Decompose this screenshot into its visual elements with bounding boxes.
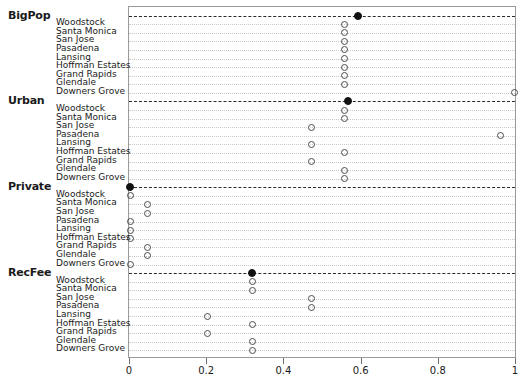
data-point[interactable] [341, 55, 348, 62]
dot-plot-chart: BigPopWoodstockSanta MonicaSan JosePasad… [0, 0, 525, 387]
x-tick-label: 0.2 [198, 365, 214, 376]
category-label: Downers Grove [56, 344, 125, 353]
data-point[interactable] [341, 107, 348, 114]
dotted-gridline [129, 325, 515, 326]
dashed-gridline [129, 273, 515, 274]
dotted-gridline [129, 67, 515, 68]
dotted-gridline [129, 230, 515, 231]
data-point[interactable] [341, 115, 348, 122]
dotted-gridline [129, 265, 515, 266]
category-label: Downers Grove [56, 259, 125, 268]
data-point[interactable] [341, 38, 348, 45]
panel-summary-point-recfee[interactable] [248, 269, 256, 277]
x-tick-label: 0.6 [353, 365, 369, 376]
dotted-gridline [129, 144, 515, 145]
x-tick-mark [283, 358, 284, 364]
dotted-gridline [129, 350, 515, 351]
data-point[interactable] [341, 46, 348, 53]
data-point[interactable] [341, 64, 348, 71]
x-tick-label: 0.4 [275, 365, 291, 376]
dotted-gridline [129, 41, 515, 42]
data-point[interactable] [308, 295, 315, 302]
x-tick-mark [206, 358, 207, 364]
dotted-gridline [129, 213, 515, 214]
panel-summary-point-private[interactable] [126, 183, 134, 191]
x-tick-label: 1 [512, 365, 518, 376]
data-point[interactable] [341, 72, 348, 79]
dotted-gridline [129, 307, 515, 308]
dotted-gridline [129, 299, 515, 300]
dotted-gridline [129, 204, 515, 205]
dotted-gridline [129, 153, 515, 154]
data-point[interactable] [511, 89, 518, 96]
x-tick-mark [438, 358, 439, 364]
category-label: Downers Grove [56, 87, 125, 96]
dotted-gridline [129, 239, 515, 240]
dotted-gridline [129, 342, 515, 343]
plot-area [128, 6, 516, 358]
category-label: Downers Grove [56, 173, 125, 182]
data-point[interactable] [308, 158, 315, 165]
dotted-gridline [129, 256, 515, 257]
data-point[interactable] [249, 321, 256, 328]
dotted-gridline [129, 333, 515, 334]
data-point[interactable] [497, 132, 504, 139]
dashed-gridline [129, 101, 515, 102]
dotted-gridline [129, 247, 515, 248]
dotted-gridline [129, 170, 515, 171]
dotted-gridline [129, 119, 515, 120]
x-tick-mark [129, 358, 130, 364]
dashed-gridline [129, 16, 515, 17]
data-point[interactable] [127, 261, 134, 268]
panel-title-private: Private [8, 180, 51, 193]
dotted-gridline [129, 282, 515, 283]
data-point[interactable] [308, 141, 315, 148]
data-point[interactable] [127, 218, 134, 225]
data-point[interactable] [308, 304, 315, 311]
dotted-gridline [129, 179, 515, 180]
panel-title-urban: Urban [8, 94, 45, 107]
dotted-gridline [129, 33, 515, 34]
dotted-gridline [129, 222, 515, 223]
x-axis: 00.20.40.60.81 [128, 358, 516, 384]
data-point[interactable] [249, 347, 256, 354]
x-tick-label: 0.8 [430, 365, 446, 376]
x-tick-label: 0 [126, 365, 132, 376]
panel-title-recfee: RecFee [8, 266, 51, 279]
data-point[interactable] [127, 192, 134, 199]
data-point[interactable] [341, 175, 348, 182]
data-point[interactable] [204, 313, 211, 320]
data-point[interactable] [341, 167, 348, 174]
dotted-gridline [129, 50, 515, 51]
data-point[interactable] [341, 21, 348, 28]
dotted-gridline [129, 24, 515, 25]
data-point[interactable] [204, 330, 211, 337]
dotted-gridline [129, 127, 515, 128]
panel-title-bigpop: BigPop [8, 9, 50, 22]
dotted-gridline [129, 162, 515, 163]
x-tick-mark [515, 358, 516, 364]
data-point[interactable] [144, 252, 151, 259]
data-point[interactable] [144, 210, 151, 217]
panel-summary-point-bigpop[interactable] [354, 12, 362, 20]
data-point[interactable] [341, 81, 348, 88]
dotted-gridline [129, 136, 515, 137]
data-point[interactable] [249, 338, 256, 345]
data-point[interactable] [308, 124, 315, 131]
data-point[interactable] [341, 29, 348, 36]
data-point[interactable] [144, 244, 151, 251]
dotted-gridline [129, 93, 515, 94]
dotted-gridline [129, 76, 515, 77]
dotted-gridline [129, 59, 515, 60]
data-point[interactable] [249, 287, 256, 294]
dashed-gridline [129, 187, 515, 188]
dotted-gridline [129, 316, 515, 317]
panel-summary-point-urban[interactable] [344, 97, 352, 105]
data-point[interactable] [144, 201, 151, 208]
dotted-gridline [129, 84, 515, 85]
dotted-gridline [129, 290, 515, 291]
data-point[interactable] [249, 278, 256, 285]
dotted-gridline [129, 110, 515, 111]
data-point[interactable] [341, 149, 348, 156]
dotted-gridline [129, 196, 515, 197]
